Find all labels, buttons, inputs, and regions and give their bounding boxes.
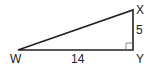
vertex-label-x: X bbox=[136, 3, 144, 17]
right-angle-marker bbox=[126, 43, 133, 50]
triangle-wxy bbox=[18, 10, 133, 50]
triangle-diagram: X 5 Y W 14 bbox=[0, 0, 152, 78]
side-label-xy: 5 bbox=[136, 23, 143, 37]
vertex-label-y: Y bbox=[136, 52, 144, 66]
vertex-label-w: W bbox=[10, 52, 22, 66]
side-label-wy: 14 bbox=[71, 52, 85, 66]
